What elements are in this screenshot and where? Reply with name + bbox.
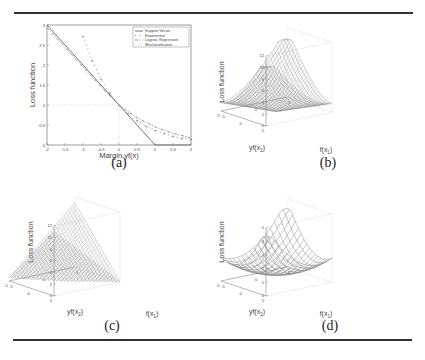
- panel-c-surface-chart: 02468101250-5-505Loss functionyf(x2)f(x1…: [0, 180, 212, 340]
- svg-text:+: +: [163, 131, 166, 136]
- legend-entry: Support Vector: [145, 29, 171, 33]
- svg-text:+: +: [172, 134, 175, 139]
- line-chart-a: -2-1.5-1-0.500.511.5200.511.522.53Margin…: [0, 0, 212, 180]
- legend-entry: Exponential: [145, 34, 165, 38]
- svg-text:+: +: [136, 118, 139, 123]
- surface-mesh: [221, 209, 332, 276]
- surface-chart-d: 01234550-5-505Loss functionyf(x2)f(x1): [212, 180, 425, 340]
- z-axis-label: Loss function: [218, 61, 225, 102]
- svg-text:+: +: [127, 111, 130, 116]
- y-tick-label: -5: [4, 283, 8, 288]
- y-tick-label: -5: [216, 113, 220, 118]
- x-tick-label: 1: [154, 147, 157, 152]
- z-tick-label: 12: [48, 223, 53, 228]
- surface-mesh: [221, 39, 332, 112]
- y-tick-label: 3: [43, 23, 46, 28]
- z-tick-label: 2: [262, 112, 265, 117]
- x-tick-label: -1: [81, 147, 85, 152]
- legend-entry: Misclassification: [145, 43, 172, 47]
- y-tick-label: 1.5: [39, 83, 45, 88]
- y-tick-label: 5: [50, 298, 53, 303]
- y-tick-label: 5: [262, 298, 265, 303]
- z-tick-label: 5: [262, 225, 265, 230]
- panel-d-surface-chart: 01234550-5-505Loss functionyf(x2)f(x1) (…: [212, 180, 425, 340]
- caption-d: (d): [310, 318, 350, 334]
- x-tick-label: 0: [255, 277, 258, 282]
- panel-b-surface-chart: 02468101250-5-505Loss functionyf(x2)f(x1…: [212, 0, 425, 180]
- z-axis-label: Loss function: [218, 221, 225, 262]
- svg-text:+: +: [82, 34, 85, 39]
- y-tick-label: 5: [262, 128, 265, 133]
- y-tick-label: 1: [43, 103, 46, 108]
- y-axis-label: yf(x2): [249, 144, 265, 153]
- svg-text:+: +: [145, 124, 148, 129]
- x-tick-label: 1.5: [170, 147, 176, 152]
- svg-text:+: +: [91, 58, 94, 63]
- caption-c: (c): [92, 318, 132, 334]
- y-tick-label: 0.5: [39, 123, 45, 128]
- y-tick-label: 0: [27, 291, 30, 296]
- z-tick-label: 1: [262, 280, 265, 285]
- y-axis-label: yf(x2): [249, 308, 265, 317]
- y-tick-label: 0: [239, 291, 242, 296]
- surface-chart-c: 02468101250-5-505Loss functionyf(x2)f(x1…: [0, 180, 212, 340]
- x-axis-label: f(x1): [320, 146, 333, 155]
- z-tick-label: 2: [50, 282, 53, 287]
- svg-text:+: +: [100, 77, 103, 82]
- x-tick-label: -5: [9, 284, 13, 289]
- y-tick-label: 0: [239, 121, 242, 126]
- x-axis-label: f(x1): [146, 310, 159, 319]
- caption-a: (a): [99, 155, 139, 171]
- y-tick-label: -5: [216, 283, 220, 288]
- panel-a-loss-vs-margin-chart: -2-1.5-1-0.500.511.5200.511.522.53Margin…: [0, 0, 212, 180]
- x-tick-label: 2: [190, 147, 193, 152]
- y-tick-label: 2: [43, 63, 46, 68]
- y-axis-label: yf(x2): [67, 308, 83, 317]
- svg-text:+: +: [181, 136, 184, 141]
- surface-chart-b: 02468101250-5-505Loss functionyf(x2)f(x1…: [212, 0, 425, 180]
- svg-text:+: +: [154, 128, 157, 133]
- y-axis-label: Loss function: [28, 63, 37, 107]
- x-tick-label: -5: [221, 114, 225, 119]
- x-tick-label: -1.5: [61, 147, 69, 152]
- surface-mesh: [9, 203, 120, 282]
- x-tick-label: -2: [45, 147, 49, 152]
- z-tick-label: 12: [260, 53, 265, 58]
- legend-entry: Logistic Regression: [145, 38, 178, 42]
- y-tick-label: 2.5: [39, 43, 45, 48]
- caption-b: (b): [308, 155, 348, 171]
- x-tick-label: -5: [221, 284, 225, 289]
